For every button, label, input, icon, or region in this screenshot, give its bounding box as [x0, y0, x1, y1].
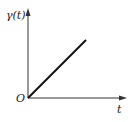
x-axis-label: t [117, 104, 121, 115]
gamma-line [28, 40, 86, 98]
origin-label: O [16, 93, 25, 104]
y-axis-label: γ(t) [6, 10, 26, 21]
y-axis-arrow-icon [26, 8, 31, 16]
x-axis-arrow-icon [119, 96, 127, 101]
